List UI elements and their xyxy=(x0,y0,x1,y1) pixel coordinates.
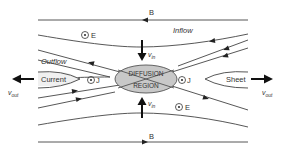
outflow-label: Outflow xyxy=(41,57,67,66)
field-line-top-b xyxy=(38,18,248,23)
j-current-label-left: J xyxy=(96,76,100,85)
vin-top-arrow xyxy=(138,40,147,61)
sheet-label: Sheet xyxy=(226,75,247,84)
arrow-right-icon xyxy=(72,88,79,94)
separatrix-upper-right xyxy=(172,48,248,72)
vout-left-label: vout xyxy=(8,89,19,98)
vout-left-arrow xyxy=(12,75,34,84)
e-field-out-of-page-icon xyxy=(176,104,183,111)
arrow-right-icon xyxy=(142,140,148,145)
vout-right-label: vout xyxy=(262,89,273,98)
arrow-left-icon xyxy=(87,60,94,66)
field-label-top: B xyxy=(149,8,154,17)
reconnection-diagram: B B DIFFUSION REGION vin vi xyxy=(0,0,283,151)
e-field-label-bottom: E xyxy=(185,103,190,112)
diffusion-region-label-line2: REGION xyxy=(133,82,159,89)
separatrix-lower-right xyxy=(172,86,248,110)
j-current-out-of-page-icon xyxy=(179,77,186,84)
field-line-bottom-b xyxy=(38,140,248,145)
vin-bottom-label: vin xyxy=(148,100,156,109)
e-field-out-of-page-icon xyxy=(82,32,89,39)
current-label: Current xyxy=(41,75,67,84)
arrow-left-icon xyxy=(142,18,148,23)
diffusion-region-label-line1: DIFFUSION xyxy=(128,70,163,77)
vin-bottom-arrow xyxy=(138,97,147,118)
field-label-bottom: B xyxy=(149,132,154,141)
vout-right-arrow xyxy=(251,75,273,84)
e-field-label-top: E xyxy=(91,31,96,40)
vin-top-label: vin xyxy=(148,51,156,60)
inflow-label: Inflow xyxy=(173,26,193,35)
j-current-label-right: J xyxy=(187,76,191,85)
